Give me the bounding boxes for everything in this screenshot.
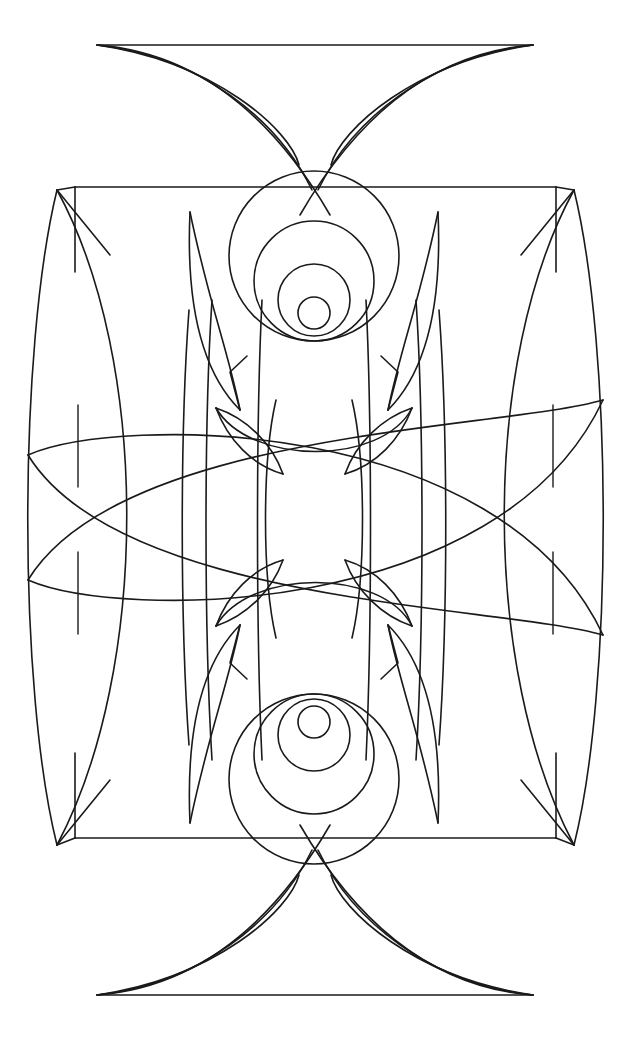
artwork-canvas	[0, 0, 631, 1051]
line-art-svg	[0, 0, 631, 1051]
background	[0, 0, 631, 1051]
